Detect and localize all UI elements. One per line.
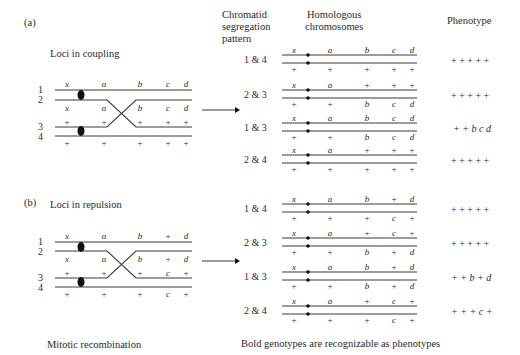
locus-label: b [365,46,370,55]
locus-label: x [292,114,296,123]
locus-label: + [291,282,296,291]
locus-label: + [364,65,369,74]
strand-number-4: 4 [38,282,43,293]
locus-label: d [410,195,415,204]
locus-label: + [327,282,332,291]
locus-label: d [184,104,189,113]
locus-label: + [327,65,332,74]
locus-label: a [102,255,107,264]
locus-label: c [392,214,396,223]
locus-label: c [392,114,396,123]
locus-label: + [391,65,396,74]
locus-label: c [392,229,396,238]
phenotype-value: + + b c d [453,123,491,134]
locus-label: + [409,65,414,74]
locus-label: d [410,46,415,55]
locus-label: c [392,316,396,325]
locus-label: b [365,248,370,257]
locus-label: + [64,118,69,127]
locus-label: x [65,232,69,241]
locus-label: + [101,118,106,127]
locus-label: + [391,248,396,257]
locus-label: + [165,255,170,264]
locus-label: a [328,229,333,238]
locus-label: + [391,165,396,174]
locus-label: + [409,165,414,174]
locus-label: + [291,133,296,142]
locus-label: + [64,269,69,278]
locus-label: + [327,133,332,142]
locus-label: b [365,133,370,142]
locus-label: + [183,118,188,127]
locus-label: + [101,290,106,299]
locus-label: + [183,290,188,299]
locus-label: + [101,139,106,148]
locus-label: b [365,263,370,272]
locus-label: + [391,282,396,291]
phenotype-value: + + + + + [451,55,489,66]
phenotype-value: + + + + + [451,90,489,101]
header-segregation-line2: segregation [222,21,270,32]
locus-label: + [137,269,142,278]
locus-label: b [365,282,370,291]
locus-label: + [291,165,296,174]
segregation-pattern: 2 & 4 [244,305,267,316]
locus-label: c [392,100,396,109]
caption-bold-genotypes: Bold genotypes are recognizable as pheno… [241,338,440,349]
locus-label: b [365,114,370,123]
panel-b-label: (b) [24,197,36,208]
panel-a-label: (a) [24,17,36,28]
locus-label: a [328,81,333,90]
locus-label: a [102,104,107,113]
locus-label: a [328,46,333,55]
locus-label: + [183,269,188,278]
locus-label: + [327,100,332,109]
phenotype-value: + + + + + [451,238,489,249]
locus-label: b [138,255,143,264]
locus-label: + [391,195,396,204]
segregation-pattern: 2 & 4 [244,154,267,165]
locus-label: + [364,165,369,174]
locus-label: c [392,133,396,142]
locus-label: + [101,269,106,278]
locus-label: a [328,114,333,123]
locus-label: + [327,214,332,223]
locus-label: x [292,81,296,90]
locus-label: d [410,114,415,123]
locus-label: + [391,146,396,155]
locus-label: + [409,214,414,223]
locus-label: d [410,100,415,109]
locus-label: + [64,290,69,299]
locus-label: d [410,282,415,291]
locus-label: b [138,80,143,89]
locus-label: a [328,146,333,155]
segregation-pattern: 2 & 3 [244,237,267,248]
locus-label: a [328,263,333,272]
locus-label: + [137,139,142,148]
locus-label: c [166,290,170,299]
locus-label: + [327,316,332,325]
locus-label: c [166,80,170,89]
locus-label: a [102,80,107,89]
phenotype-value: + + + + + [451,155,489,166]
locus-label: d [410,248,415,257]
header-phenotype: Phenotype [447,15,491,26]
locus-label: + [364,146,369,155]
locus-label: b [138,104,143,113]
panel-a-title: Loci in coupling [50,48,119,59]
locus-label: + [409,297,414,306]
locus-label: x [292,297,296,306]
locus-label: + [165,118,170,127]
locus-label: a [102,232,107,241]
strand-number-4: 4 [38,131,43,142]
locus-label: + [183,139,188,148]
locus-label: x [65,255,69,264]
locus-label: x [292,46,296,55]
phenotype-value: + + b + d [451,272,491,283]
locus-label: c [166,104,170,113]
locus-label: + [364,214,369,223]
locus-label: + [291,100,296,109]
strand-number-2: 2 [38,246,43,257]
panel-b-title: Loci in repulsion [50,199,122,210]
locus-label: + [291,214,296,223]
